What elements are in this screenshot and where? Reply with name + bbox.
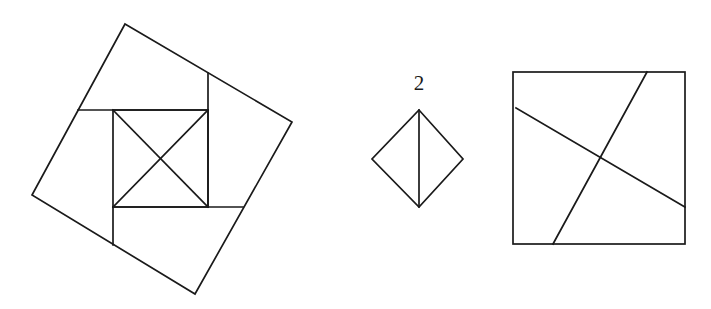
- shallow-cut-line: [516, 108, 685, 207]
- geometric-figure: 2: [0, 0, 711, 309]
- diamond-square: [372, 110, 463, 207]
- axis-aligned-square: [513, 72, 685, 244]
- left-panel: [32, 24, 292, 294]
- middle-panel: 2: [372, 71, 463, 207]
- right-panel: [513, 72, 685, 244]
- diamond-label-2: 2: [414, 71, 425, 95]
- figure-canvas: 2: [0, 0, 711, 309]
